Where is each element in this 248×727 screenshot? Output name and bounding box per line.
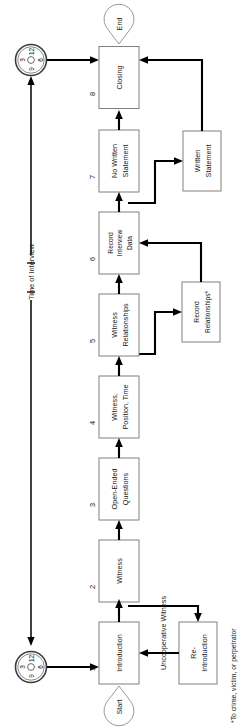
node-written-statement[interactable]: Written Statement [183, 131, 221, 191]
footnote: *To crime, victim, or perpetrator [230, 628, 238, 723]
node-re-introduction-label-1: Re- [189, 647, 198, 659]
clock-numeral-3: 3 [19, 665, 26, 669]
node-witness-position-time-label-1: Witness, [110, 393, 119, 421]
node-written-statement-label-2: Statement [204, 145, 213, 178]
node-record-relationships-label-1: Record [193, 301, 200, 323]
step-number-4: 4 [88, 421, 97, 425]
node-witness[interactable]: Witness [99, 540, 139, 602]
clock-numeral-6: 6 [37, 665, 44, 669]
node-record-relationships[interactable]: Record Relationships* [182, 282, 220, 342]
connector-4-to-5 [115, 356, 123, 376]
node-no-written-statement-label-2: Statement [121, 145, 130, 178]
node-witness-position-time-label-2: Position, Time [121, 384, 130, 429]
node-witness-label: Witness [115, 558, 124, 584]
connector-6-to-7 [115, 192, 123, 212]
node-record-interview-data-label-3: Data [126, 236, 133, 250]
clock-numeral-9: 9 [28, 67, 35, 71]
node-closing-label: Closing [115, 66, 124, 90]
node-record-relationships-label-2: Relationships* [204, 290, 212, 333]
connector-written-statement-to-closing [139, 56, 202, 131]
clock-numeral-9: 9 [28, 674, 35, 678]
node-introduction-label: Introduction [115, 634, 124, 672]
node-witness-relationships-label-1: Witness [110, 312, 119, 338]
node-witness-relationships[interactable]: Witness Relationships [99, 294, 139, 356]
flowchart-svg: Time of Interview 12 3 6 9 12 3 6 9 Clos… [0, 0, 248, 727]
clock-numeral-12: 12 [28, 48, 35, 56]
clock-numeral-6: 6 [37, 58, 44, 62]
node-record-interview-data[interactable]: Record Interview Data [99, 212, 139, 274]
step-number-3: 3 [88, 503, 97, 507]
step-number-6: 6 [88, 257, 97, 261]
step-number-1: 1 [88, 667, 97, 671]
step-number-5: 5 [88, 339, 97, 343]
clock-numeral-3: 3 [19, 58, 26, 62]
node-open-ended-questions-label-1: Open-Ended [110, 469, 119, 510]
clock-icon-end: 12 3 6 9 [16, 45, 47, 76]
branch-label-uncooperative-witness: Uncooperative Witness [159, 596, 168, 670]
node-introduction[interactable]: Introduction [99, 622, 139, 684]
terminator-end-label: End [115, 18, 124, 31]
node-witness-position-time[interactable]: Witness, Position, Time [99, 376, 139, 438]
node-open-ended-questions[interactable]: Open-Ended Questions [99, 458, 139, 520]
connector-3-to-4 [115, 438, 123, 458]
node-record-interview-data-label-2: Interview [116, 230, 123, 257]
terminator-start: Start [104, 686, 134, 726]
node-re-introduction[interactable]: Re- Introduction [179, 622, 217, 684]
flowchart-canvas: Time of Interview 12 3 6 9 12 3 6 9 Clos… [0, 0, 248, 727]
terminator-start-label: Start [115, 699, 124, 714]
node-open-ended-questions-label-2: Questions [121, 472, 130, 505]
step-number-7: 7 [88, 175, 97, 179]
connector-record-relationships-to-6 [139, 239, 201, 282]
step-number-8: 8 [88, 92, 97, 96]
connector-5-to-6 [115, 274, 123, 294]
timeline-axis: Time of Interview [27, 76, 36, 646]
step-number-2: 2 [88, 585, 97, 589]
node-closing[interactable]: Closing [99, 47, 139, 109]
node-record-interview-data-label-1: Record [107, 232, 114, 254]
connector-2-to-3 [115, 520, 123, 540]
connector-7-to-8 [115, 110, 123, 130]
connector-clock-to-closing [47, 56, 99, 64]
node-re-introduction-label-2: Introduction [200, 634, 209, 672]
node-no-written-statement-label-1: No Written [110, 144, 119, 178]
terminator-end: End [104, 4, 134, 44]
node-no-written-statement[interactable]: No Written Statement [99, 130, 139, 192]
node-witness-relationships-label-2: Relationships [121, 303, 130, 347]
node-written-statement-label-1: Written [193, 150, 202, 173]
clock-icon-start: 12 3 6 9 [16, 652, 47, 683]
clock-numeral-12: 12 [28, 655, 35, 663]
